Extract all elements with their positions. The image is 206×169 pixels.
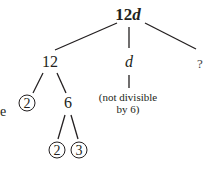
node-question: ? [197, 57, 203, 70]
root-node: 12d [115, 6, 141, 23]
node-d: d [125, 54, 133, 70]
root-number: 12 [115, 5, 132, 24]
node-circled-3: 3 [71, 142, 88, 159]
edge-root-question [145, 23, 196, 49]
node-circled-2-b: 2 [49, 142, 66, 159]
cut-off-text: e [0, 105, 6, 119]
note-line-1: (not divisible [99, 91, 157, 103]
edge-root-12 [55, 23, 117, 50]
edge-12-6 [57, 73, 66, 93]
note-line-2: by 6) [99, 103, 157, 115]
node-6: 6 [64, 95, 72, 111]
note-not-divisible: (not divisible by 6) [99, 91, 157, 115]
edge-6-2 [58, 115, 65, 139]
root-variable: d [132, 5, 141, 24]
tree-edges [0, 0, 206, 169]
node-12: 12 [42, 54, 58, 70]
edge-6-3 [71, 115, 78, 139]
edge-12-2 [33, 73, 43, 93]
node-circled-2-a: 2 [19, 95, 36, 112]
